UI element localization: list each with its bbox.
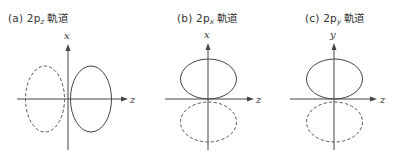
- orbital-diagram: y z: [270, 0, 398, 159]
- horizontal-axis-arrow-icon: [121, 97, 128, 102]
- orbital-diagram: x z: [0, 0, 140, 159]
- panel-2px: (b) 2px軌道 x z: [140, 0, 270, 159]
- vertical-axis-label: y: [329, 29, 336, 40]
- panel-2pz: (a) 2pz軌道 x z: [0, 0, 140, 159]
- vertical-axis-label: x: [204, 29, 210, 40]
- horizontal-axis-label: z: [255, 94, 262, 105]
- vertical-axis-label: x: [64, 30, 70, 41]
- horizontal-axis-arrow-icon: [247, 97, 254, 102]
- vertical-axis-arrow-icon: [66, 44, 71, 51]
- horizontal-axis-arrow-icon: [370, 97, 377, 102]
- horizontal-axis-label: z: [129, 94, 136, 105]
- vertical-axis-arrow-icon: [206, 43, 211, 50]
- vertical-axis-arrow-icon: [332, 43, 337, 50]
- panel-2py: (c) 2py軌道 y z: [270, 0, 398, 159]
- horizontal-axis-label: z: [379, 94, 386, 105]
- orbital-diagram: x z: [140, 0, 270, 159]
